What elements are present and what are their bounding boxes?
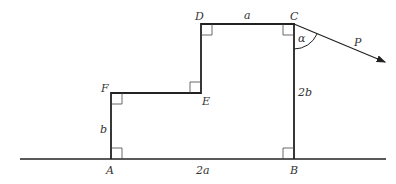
label-A: A [105,164,114,177]
label-E: E [201,95,210,108]
force-arrow-p [294,24,385,62]
right-angle-A [111,148,122,159]
right-angle-C [283,24,294,35]
label-segment-fa: b [100,123,107,136]
label-segment-cb: 2b [297,86,312,99]
diagram-canvas: D C F E A B a 2b b 2a P α [0,0,396,184]
label-D: D [194,10,204,23]
right-angle-F [111,93,122,104]
right-angle-E [190,82,201,93]
label-force-p: P [353,36,362,49]
label-segment-dc: a [244,9,251,22]
label-F: F [100,82,109,95]
right-angle-B [283,148,294,159]
label-segment-ab: 2a [195,164,210,177]
label-C: C [290,10,299,23]
right-angle-markers [111,24,294,159]
label-angle-alpha: α [298,32,306,45]
geometry-figure: D C F E A B a 2b b 2a P α [0,0,396,184]
label-B: B [289,164,298,177]
shape-outline [111,24,294,159]
right-angle-D [201,24,212,35]
